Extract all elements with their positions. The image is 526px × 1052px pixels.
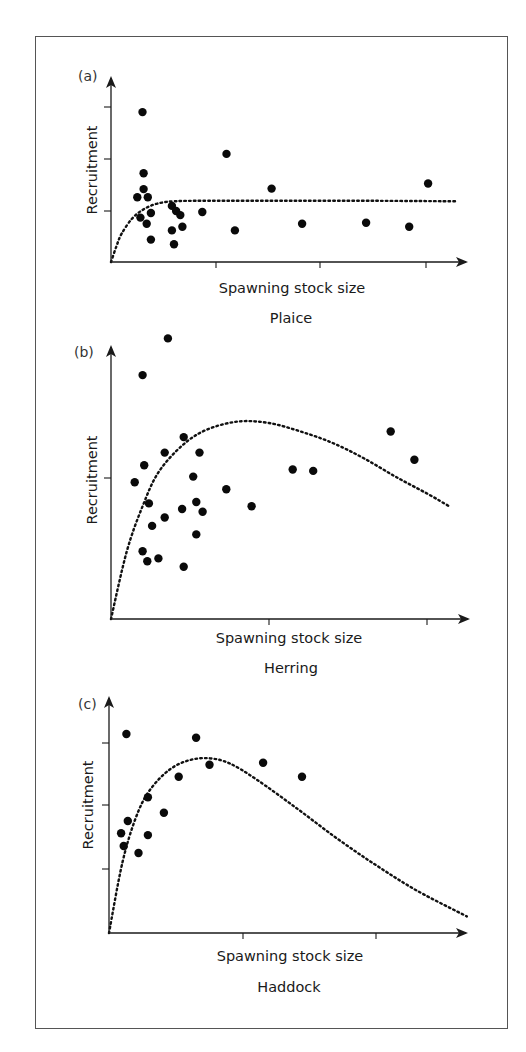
data-point [198,508,206,516]
data-point [410,456,418,464]
data-point [178,505,186,513]
panel-label: (a) [78,68,98,84]
data-point [289,465,297,473]
data-point [192,530,200,538]
data-point [231,226,239,234]
data-point [144,793,152,801]
figure-canvas: (a) Recruitment Spawning stock size Plai… [0,0,526,1052]
data-point [222,485,230,493]
x-axis-label: Spawning stock size [217,948,364,964]
data-point [175,773,183,781]
y-axis-label: Recruitment [80,760,96,849]
data-point [170,240,178,248]
data-point [309,467,317,475]
data-point [144,193,152,201]
fitted-curve [109,758,467,933]
y-axis-label: Recruitment [84,435,100,524]
data-point [267,184,275,192]
y-axis-label: Recruitment [84,125,100,214]
chart-panel-haddock: (c) Recruitment Spawning stock size Hadd… [78,696,467,995]
data-point [161,448,169,456]
data-point [178,223,186,231]
data-point [143,220,151,228]
data-point [161,513,169,521]
chart-panel-herring: (b) Recruitment Spawning stock size Herr… [74,334,468,676]
axis-ticks [104,478,427,625]
data-point [298,220,306,228]
data-point [133,193,141,201]
data-point [134,849,142,857]
data-point [124,817,132,825]
data-point [117,829,125,837]
data-point [120,842,128,850]
data-point [154,554,162,562]
data-point [160,809,168,817]
data-point [192,498,200,506]
data-point [180,433,188,441]
data-point [259,759,267,767]
data-point [222,150,230,158]
chart-title: Haddock [257,979,321,995]
data-point [387,427,395,435]
data-point [424,179,432,187]
data-point [198,208,206,216]
data-point [138,547,146,555]
chart-title: Herring [264,660,318,676]
panel-label: (c) [78,696,97,712]
data-point [189,472,197,480]
data-point [195,448,203,456]
data-point [145,499,153,507]
data-point [192,734,200,742]
data-point [139,169,147,177]
data-point [176,211,184,219]
data-point [405,223,413,231]
x-axis-label: Spawning stock size [216,630,363,646]
data-point [298,773,306,781]
axis-ticks [104,107,426,268]
data-point [168,226,176,234]
data-point [136,213,144,221]
data-point [164,334,172,342]
data-point [122,730,130,738]
chart-panel-plaice: (a) Recruitment Spawning stock size Plai… [78,68,466,326]
data-point [147,235,155,243]
axis-ticks [102,743,376,939]
data-points [133,108,432,249]
data-point [247,502,255,510]
data-point [362,219,370,227]
data-point [180,563,188,571]
data-point [144,831,152,839]
data-point [138,371,146,379]
data-point [139,185,147,193]
fitted-curve [111,201,458,262]
panel-label: (b) [74,344,94,360]
data-point [147,209,155,217]
data-point [140,461,148,469]
data-point [143,557,151,565]
x-axis-label: Spawning stock size [219,280,366,296]
data-point [131,478,139,486]
chart-title: Plaice [270,310,313,326]
data-point [138,108,146,116]
data-point [148,522,156,530]
data-point [205,761,213,769]
